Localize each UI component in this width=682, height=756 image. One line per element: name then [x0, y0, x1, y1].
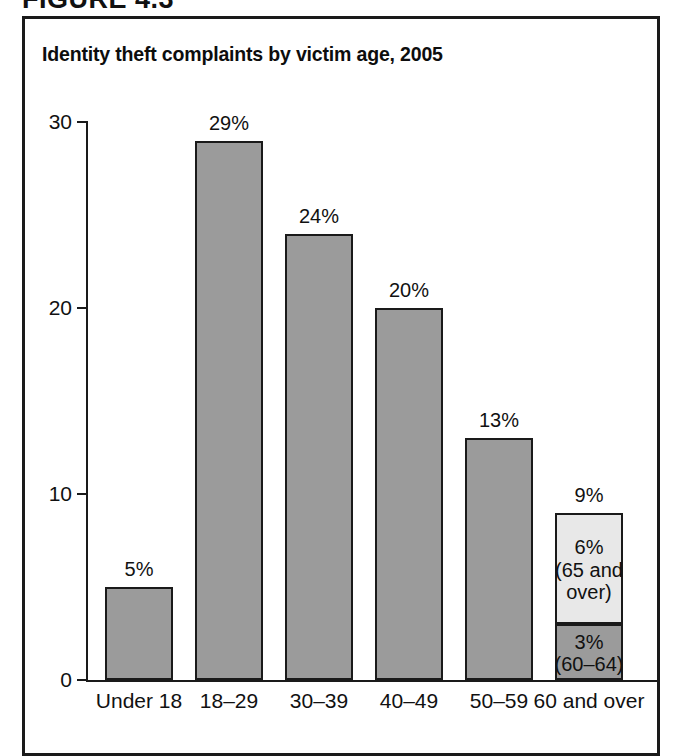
- y-axis-tick: [77, 307, 88, 309]
- bar-value-label: 9%: [540, 485, 638, 505]
- bar[interactable]: [195, 141, 263, 680]
- y-axis-tick: [77, 679, 88, 681]
- bar-segment-label: 6% (65 and over): [547, 536, 631, 603]
- y-axis-tick-label: 0: [10, 669, 72, 690]
- bar-value-label: 24%: [270, 206, 368, 226]
- bar[interactable]: [105, 587, 173, 680]
- bar[interactable]: [375, 308, 443, 680]
- y-axis-line: [86, 122, 88, 682]
- bar[interactable]: [285, 234, 353, 680]
- bar-value-label: 29%: [180, 113, 278, 133]
- y-axis-tick: [77, 121, 88, 123]
- bar-value-label: 5%: [90, 559, 188, 579]
- x-axis-tick-label: 60 and over: [519, 690, 659, 711]
- y-axis-tick-label: 30: [10, 111, 72, 132]
- bar[interactable]: [465, 438, 533, 680]
- bar-value-label: 13%: [450, 410, 548, 430]
- y-axis-tick-label: 20: [10, 297, 72, 318]
- bar-value-label: 20%: [360, 280, 458, 300]
- x-axis-line: [86, 680, 660, 682]
- y-axis-tick: [77, 493, 88, 495]
- bar-segment-label: 3% (60–64): [547, 631, 631, 676]
- y-axis-tick-label: 10: [10, 483, 72, 504]
